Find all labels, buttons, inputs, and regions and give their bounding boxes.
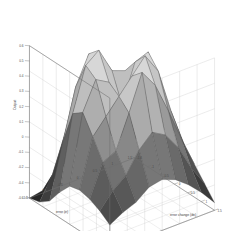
y-axis-label: error change (de) <box>170 213 196 217</box>
y-tick-1: -1 <box>151 165 154 169</box>
z-tick-0: 0.6 <box>19 44 24 48</box>
x-tick-2: -0.5 <box>57 183 63 187</box>
z-tick-5: 0.1 <box>19 120 24 124</box>
plot-canvas: -1.5-1-0.500.511.5-1.5-1-0.500.511.50.60… <box>0 0 229 231</box>
z-tick-2: 0.4 <box>19 74 24 78</box>
z-tick-10: -0.6 <box>18 196 24 200</box>
y-tick-4: 0.5 <box>191 191 196 195</box>
z-axis-label: Output <box>13 100 17 110</box>
z-tick-3: 0.3 <box>19 89 24 93</box>
y-tick-2: -0.5 <box>163 174 169 178</box>
x-tick-6: 1.5 <box>128 156 133 160</box>
x-tick-1: -1 <box>41 189 44 193</box>
x-tick-3: 0 <box>77 176 79 180</box>
x-tick-4: 0.5 <box>93 169 98 173</box>
z-tick-6: 0 <box>22 135 24 139</box>
z-tick-1: 0.5 <box>19 59 24 63</box>
x-axis-label: error (e) <box>56 210 68 214</box>
y-tick-3: 0 <box>179 182 181 186</box>
x-tick-5: 1 <box>112 162 114 166</box>
surface-plot-figure: -1.5-1-0.500.511.5-1.5-1-0.500.511.50.60… <box>0 0 229 231</box>
y-tick-0: -1.5 <box>137 156 143 160</box>
y-tick-5: 1 <box>205 200 207 204</box>
z-tick-9: -0.4 <box>18 181 24 185</box>
y-tick-6: 1.5 <box>218 209 223 213</box>
z-tick-8: -0.2 <box>18 165 24 169</box>
z-tick-7: -0.1 <box>18 150 24 154</box>
z-tick-4: 0.2 <box>19 105 24 109</box>
